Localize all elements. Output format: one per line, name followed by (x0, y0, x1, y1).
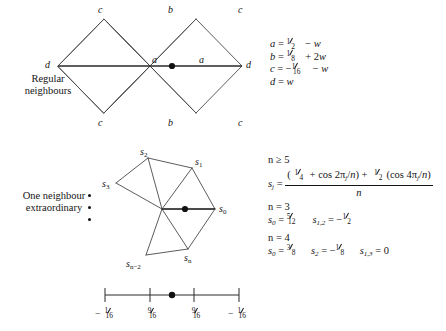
tick-label-1: −116 (90, 308, 122, 319)
vertex-label-inner-right: a (199, 54, 204, 65)
vertex-label-right-end: d (246, 59, 251, 70)
center-vertex-dot (169, 63, 175, 69)
equation-a: a = 12 − w (270, 38, 328, 51)
scale-bar: −116 916 916 −116 (84, 284, 260, 328)
sj-denominator: n (285, 187, 432, 199)
figure-page: c b c c b c d d a a Regular neighbours a… (0, 0, 446, 331)
caption-regular-line1: Regular (6, 73, 90, 85)
vertex-label-bottom-left: c (98, 117, 102, 128)
tick-label-4: −116 (222, 308, 256, 319)
caption-regular-line2: neighbours (6, 85, 90, 97)
sj-fraction: (14 + cos 2πj/n) + 12(cos 4πj/n) n (285, 169, 432, 199)
caption-extraordinary-line1: One neighbour (2, 190, 106, 202)
vertex-label-top-mid: b (168, 4, 173, 15)
scale-center-dot (169, 292, 175, 298)
extraordinary-neighbour-diagram: s2 s1 s3 s0 sn sn−2 (100, 152, 270, 280)
vertex-label-top-right: c (238, 4, 242, 15)
vertex-label-bottom-right: c (238, 117, 242, 128)
regular-neighbours-diagram: c b c c b c d d a a (0, 0, 260, 140)
tick-label-2: 916 (136, 308, 168, 319)
condition-n-ge-5: n ≥ 5 (268, 154, 433, 167)
vertex-label-s0: s0 (219, 203, 226, 216)
tick-label-3: 916 (180, 308, 212, 319)
vertex-label-top-left: c (98, 4, 102, 15)
regular-equations: a = 12 − w b = 18 + 2w c = −116 − w d = … (270, 38, 328, 88)
vertex-label-s1: s1 (195, 156, 202, 169)
equation-b: b = 18 + 2w (270, 51, 328, 64)
case-n-4-values: s0 = 38 s2 = −18 s1,3 = 0 (268, 245, 433, 258)
vertex-label-sn: sn (184, 252, 191, 265)
vertex-label-s2: s2 (140, 146, 147, 159)
vertex-label-left-end: d (45, 59, 50, 70)
extraordinary-center-dot (182, 206, 188, 212)
vertex-label-s3: s3 (102, 178, 109, 191)
vertex-label-inner-left: a (152, 54, 157, 65)
scale-bar-svg (84, 284, 260, 306)
sj-numerator: (14 + cos 2πj/n) + 12(cos 4πj/n) (285, 169, 432, 184)
vertex-label-sn-2: sn−2 (126, 258, 141, 271)
regular-mesh-final (0, 0, 260, 140)
sj-formula: sj = (14 + cos 2πj/n) + 12(cos 4πj/n) n (268, 169, 433, 195)
vertex-label-bottom-mid: b (168, 117, 173, 128)
caption-extraordinary-line2: extraordinary (2, 202, 106, 214)
caption-regular-neighbours: Regular neighbours (6, 73, 90, 97)
caption-one-neighbour-extraordinary: One neighbour extraordinary (2, 190, 106, 214)
equation-c: c = −116 − w (270, 63, 328, 76)
case-n-3-values: s0 = 512 s1,2 = −12 (268, 214, 433, 227)
extraordinary-formulas: n ≥ 5 sj = (14 + cos 2πj/n) + 12(cos 4πj… (268, 154, 433, 257)
